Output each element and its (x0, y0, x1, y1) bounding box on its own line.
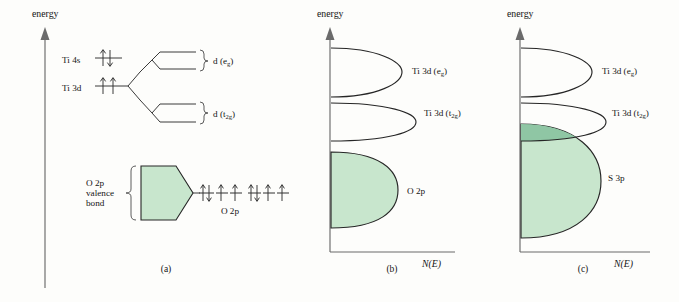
panel-a-energy-axis: energy (32, 8, 59, 288)
panel-c-band-s3p-label: S 3p (608, 173, 625, 183)
panel-a-splitting-connectors (128, 60, 152, 113)
panel-b-band-o2p: O 2p (331, 152, 426, 228)
panel-a-ligand-group-1 (199, 185, 242, 202)
panel-a-ligand-group-2 (248, 185, 289, 202)
panel-a-valence-label-line3: bond (86, 198, 105, 208)
panel-a-energy-label: energy (32, 8, 59, 19)
band-structure-figure: energy Ti 4s Ti 3d (0, 0, 679, 302)
panel-b-caption: (b) (386, 264, 397, 275)
panel-a-level-ti3d: Ti 3d (62, 78, 128, 94)
panel-b-band-t2g-label: Ti 3d (t2g) (424, 108, 461, 119)
panel-c-band-t2g-label: Ti 3d (t2g) (612, 108, 649, 119)
panel-c-dos-label: N(E) (613, 258, 633, 270)
panel-a-ligand-label: O 2p (221, 206, 240, 216)
panel-c-energy-label: energy (507, 8, 534, 19)
panel-b-energy-axis-arrowhead (326, 27, 335, 40)
panel-b-band-eg: Ti 3d (eg) (331, 48, 447, 97)
panel-b-axes: energy N(E) (317, 8, 455, 270)
panel-c-caption: (c) (578, 264, 589, 275)
panel-a-valence-brace: O 2p valence bond (86, 166, 136, 220)
panel-b-band-eg-label: Ti 3d (eg) (412, 66, 447, 77)
panel-b-band-t2g: Ti 3d (t2g) (331, 103, 461, 141)
panel-a-valence-band-shape (141, 166, 193, 220)
panel-b: energy N(E) Ti 3d (eg) Ti 3d (t2g) O 2p … (317, 8, 461, 275)
panel-c: energy N(E) Ti 3d (eg) Ti 3d (t2g) S 3p … (507, 8, 650, 275)
panel-a-valence-label-line2: valence (86, 188, 114, 198)
panel-a-level-ti3d-label: Ti 3d (62, 83, 82, 93)
energy-axis-arrowhead (41, 27, 50, 40)
panel-a-band-eg-brace (200, 50, 208, 71)
panel-a-band-eg-label: d (eg) (213, 56, 233, 67)
panel-c-band-eg: Ti 3d (eg) (521, 48, 637, 97)
panel-a-band-eg: d (eg) (152, 50, 233, 71)
panel-a-valence-label-line1: O 2p (86, 178, 105, 188)
panel-b-dos-label: N(E) (421, 258, 441, 270)
panel-a-band-t2g-label: d (t2g) (213, 109, 235, 120)
panel-a-caption: (a) (161, 264, 172, 275)
panel-c-energy-axis-arrowhead (516, 27, 525, 40)
panel-a-band-t2g: d (t2g) (152, 102, 235, 124)
panel-a-level-ti4s: Ti 4s (62, 50, 122, 67)
panel-a: energy Ti 4s Ti 3d (32, 8, 289, 288)
panel-a-band-t2g-brace (200, 102, 208, 124)
panel-b-band-o2p-label: O 2p (407, 186, 426, 196)
panel-a-level-ti4s-label: Ti 4s (62, 55, 81, 65)
panel-c-band-eg-label: Ti 3d (eg) (602, 66, 637, 77)
panel-b-energy-label: energy (317, 8, 344, 19)
